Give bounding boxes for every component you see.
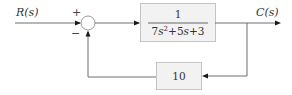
output-arrow-icon — [275, 21, 281, 26]
forward-arrow-icon — [134, 21, 140, 26]
summing-junction — [81, 16, 95, 30]
forward-denominator: 7s2+5s+3 — [152, 25, 205, 37]
input-arrow-icon — [75, 21, 81, 26]
output-label: C(s) — [256, 6, 279, 19]
feedback-gain: 10 — [172, 70, 185, 82]
forward-numerator: 1 — [175, 8, 182, 20]
feedback-return-arrow-icon — [86, 31, 91, 37]
block-diagram: R(s) + − 1 7s2+5s+3 C(s) 10 — [0, 0, 292, 95]
minus-sign: − — [71, 27, 80, 40]
input-label: R(s) — [15, 6, 39, 19]
feedback-arrow-icon — [202, 74, 208, 79]
plus-sign: + — [72, 6, 81, 19]
